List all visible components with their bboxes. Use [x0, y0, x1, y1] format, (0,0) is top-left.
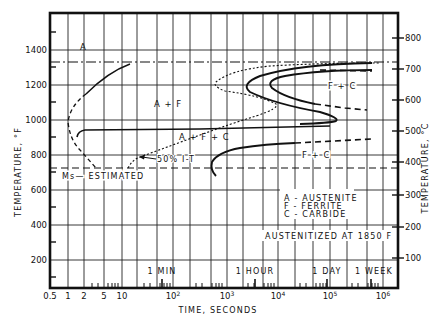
bottom-minor-ticks [92, 279, 378, 288]
svg-text:1: 1 [65, 291, 70, 301]
svg-text:800: 800 [31, 150, 47, 160]
carbide-end-dashed-extension [315, 104, 367, 110]
carbide-end-c-curve [270, 70, 372, 104]
svg-text:1200: 1200 [25, 80, 47, 90]
svg-text:100: 100 [405, 253, 421, 263]
region-label-f-c-lower: F + C [302, 150, 330, 160]
region-label-a-f: A + F [154, 99, 182, 109]
one-week-label: 1 WEEK [355, 267, 393, 276]
svg-text:300: 300 [405, 190, 421, 200]
region-label-f-c-upper: F + C [328, 81, 356, 91]
legend: A - AUSTENITE F - FERRITE C - CARBIDE [280, 189, 358, 219]
svg-text:500: 500 [405, 126, 421, 136]
svg-text:200: 200 [31, 255, 47, 265]
vertical-gridlines [68, 13, 383, 288]
svg-text:104: 104 [271, 290, 286, 301]
x-axis-title: TIME, SECONDS [177, 306, 257, 315]
svg-text:800: 800 [405, 33, 421, 43]
one-day-label: 1 DAY [312, 267, 341, 276]
legend-carbide: C - CARBIDE [284, 210, 346, 219]
svg-text:105: 105 [323, 290, 338, 301]
svg-text:600: 600 [405, 95, 421, 105]
left-y-tick-labels: 1400 1200 1000 800 600 400 200 [25, 45, 47, 265]
svg-text:400: 400 [405, 157, 421, 167]
austenite-boundary-solid [86, 64, 130, 94]
plot-frame [50, 13, 398, 288]
svg-text:106: 106 [376, 290, 391, 301]
svg-text:1000: 1000 [25, 115, 47, 125]
austenitized-note: AUSTENITIZED AT 1850 F [265, 232, 392, 241]
svg-text:400: 400 [31, 220, 47, 230]
fifty-percent-it-label: 50% I-T [157, 155, 195, 164]
right-y-tick-labels: 800 700 600 500 400 300 200 100 [405, 33, 421, 263]
ms-estimated-label: Ms— ESTIMATED [62, 172, 144, 181]
lower-fc-dashed-extension [295, 139, 372, 143]
svg-text:0.5: 0.5 [43, 291, 57, 301]
one-hour-label: 1 HOUR [236, 267, 275, 276]
region-label-a-f-c: A + F + C [179, 132, 230, 142]
one-min-label: 1 MIN [148, 267, 177, 276]
svg-text:10: 10 [117, 291, 128, 301]
y-axis-title-left: TEMPERATURE, °F [14, 127, 23, 218]
svg-text:1400: 1400 [25, 45, 47, 55]
svg-text:200: 200 [405, 222, 421, 232]
svg-text:2: 2 [81, 291, 86, 301]
svg-text:102: 102 [166, 290, 181, 301]
x-tick-labels: 0.5 1 2 5 10 102 103 104 105 106 [43, 290, 390, 301]
lower-fc-start-curve [212, 143, 296, 176]
svg-text:600: 600 [31, 185, 47, 195]
svg-text:5: 5 [101, 291, 106, 301]
svg-text:103: 103 [220, 290, 235, 301]
y-axis-title-right: TEMPERATURE, °C [421, 123, 430, 215]
it-diagram-chart: 1400 1200 1000 800 600 400 200 800 700 6… [0, 0, 442, 324]
time-annotations: 1 MIN 1 HOUR 1 DAY 1 WEEK [148, 267, 394, 276]
svg-text:700: 700 [405, 64, 421, 74]
region-label-a: A [80, 42, 87, 52]
